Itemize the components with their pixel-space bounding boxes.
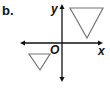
y-axis-down-arrow-icon [60,77,65,82]
origin-label: O [50,43,59,57]
y-axis-label: y [51,2,58,16]
x-axis-left-arrow-icon [20,41,25,46]
x-axis-label: x [98,44,105,58]
large-triangle [70,8,103,38]
part-label: b. [2,3,14,18]
small-triangle [29,54,50,70]
coordinate-diagram: b. y O x [0,0,110,88]
y-axis-up-arrow-icon [60,4,65,9]
